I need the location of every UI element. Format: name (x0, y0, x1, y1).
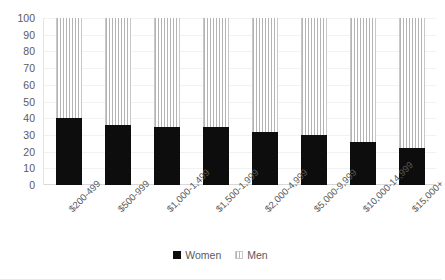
plot-inner: 1009080706050403020100 (44, 18, 436, 185)
gridline (44, 51, 436, 52)
bar-segment-women[interactable] (154, 127, 180, 185)
gridline (44, 68, 436, 69)
y-axis-tick-label: 40 (1, 113, 35, 123)
bar-column[interactable] (105, 18, 131, 185)
y-axis-tick-label: 90 (1, 30, 35, 40)
bar-column[interactable] (154, 18, 180, 185)
gridline (44, 118, 436, 119)
bar-segment-men[interactable] (350, 18, 376, 142)
bar-column[interactable] (203, 18, 229, 185)
y-axis-tick-label: 50 (1, 97, 35, 107)
gridline (44, 18, 436, 19)
y-axis-tick-label: 100 (1, 13, 35, 23)
gridline (44, 35, 436, 36)
bar-segment-men[interactable] (154, 18, 180, 127)
gridline (44, 135, 436, 136)
y-axis-tick-label: 30 (1, 130, 35, 140)
bar-column[interactable] (56, 18, 82, 185)
bar-segment-men[interactable] (203, 18, 229, 127)
bar-segment-men[interactable] (56, 18, 82, 118)
bar-column[interactable] (252, 18, 278, 185)
bar-segment-men[interactable] (399, 18, 425, 148)
legend-item-label: Women (185, 249, 221, 261)
gridline (44, 152, 436, 153)
gridline (44, 168, 436, 169)
bar-column[interactable] (350, 18, 376, 185)
gridline (44, 102, 436, 103)
gridline (44, 85, 436, 86)
bar-column[interactable] (301, 18, 327, 185)
bar-segment-men[interactable] (105, 18, 131, 125)
legend-item-men[interactable]: Men (235, 249, 267, 261)
legend-item-women[interactable]: Women (173, 249, 221, 261)
y-axis-tick-label: 80 (1, 46, 35, 56)
legend-item-label: Men (247, 249, 267, 261)
y-axis-tick-label: 10 (1, 163, 35, 173)
men-swatch (235, 251, 243, 259)
bar-segment-women[interactable] (56, 118, 82, 185)
bar-segment-men[interactable] (252, 18, 278, 132)
bar-column[interactable] (399, 18, 425, 185)
plot-area: 1009080706050403020100 $200-499$500-999$… (44, 18, 436, 185)
y-axis-tick-label: 0 (1, 180, 35, 190)
y-axis-tick-label: 60 (1, 80, 35, 90)
bar-segment-men[interactable] (301, 18, 327, 135)
y-axis-tick-label: 70 (1, 63, 35, 73)
chart-legend: WomenMen (0, 249, 441, 261)
y-axis-tick-label: 20 (1, 147, 35, 157)
bar-segment-women[interactable] (105, 125, 131, 185)
women-swatch (173, 251, 181, 259)
